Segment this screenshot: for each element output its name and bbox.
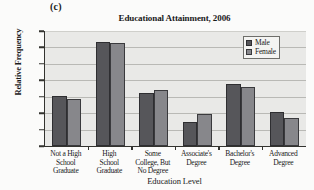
x-tick-label-line: Degree (256, 159, 312, 168)
gridline (45, 113, 306, 114)
bar-male-4 (226, 84, 241, 146)
bar-male-3 (183, 122, 198, 146)
legend-swatch-male-icon (246, 40, 252, 46)
bar-male-0 (52, 96, 67, 146)
chart-title: Educational Attainment, 2006 (44, 13, 305, 23)
y-tick-mark (39, 145, 44, 147)
bar-male-2 (139, 93, 154, 146)
y-axis-label: Relative Frequency (13, 12, 23, 112)
bar-female-1 (110, 43, 125, 146)
figure: (c) Educational Attainment, 2006 Relativ… (0, 0, 314, 190)
legend: Male Female (243, 36, 280, 59)
legend-label-male: Male (255, 38, 270, 47)
gridline (45, 64, 306, 65)
gridline (45, 97, 306, 98)
bar-female-4 (241, 87, 256, 146)
bar-female-2 (154, 90, 169, 147)
x-axis-label: Education Level (44, 176, 305, 186)
bar-female-0 (67, 99, 82, 146)
y-tick-mark (39, 80, 44, 82)
x-tick-label: AdvancedDegree (256, 150, 312, 167)
legend-swatch-female-icon (246, 49, 252, 55)
bar-female-5 (284, 118, 299, 146)
gridline (45, 80, 306, 81)
panel-label: (c) (50, 1, 62, 12)
legend-label-female: Female (255, 47, 276, 56)
gridline (45, 31, 306, 32)
bar-female-3 (197, 114, 212, 146)
x-tick-label-line: No Degree (125, 167, 181, 176)
bar-male-5 (270, 112, 285, 146)
legend-item-female: Female (246, 47, 276, 56)
y-tick-mark (39, 63, 44, 65)
bar-male-1 (96, 42, 111, 146)
y-tick-mark (39, 30, 44, 32)
y-tick-mark (39, 129, 44, 131)
legend-item-male: Male (246, 38, 276, 47)
y-tick-mark (39, 112, 44, 114)
y-tick-mark (39, 47, 44, 49)
y-tick-mark (39, 96, 44, 98)
gridline (45, 130, 306, 131)
